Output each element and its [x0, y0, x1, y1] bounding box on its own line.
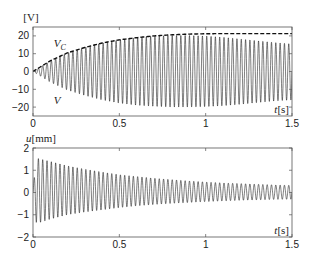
voltage-plot: 00.511.5−20−1001020[V]t[s]VCV: [12, 11, 299, 129]
x-axis-label: t[s]: [274, 224, 289, 236]
x-axis-label: t[s]: [274, 103, 289, 115]
y-axis-label: [V]: [23, 11, 38, 23]
y-tick-label: 10: [18, 48, 30, 59]
x-axis-unit: [s]: [277, 103, 289, 115]
y-tick-label: −2: [18, 232, 30, 243]
y-tick-label: −1: [18, 209, 30, 220]
x-tick-label: 1.5: [285, 118, 299, 129]
series-V: [33, 36, 292, 107]
x-tick-label: 0: [30, 118, 36, 129]
curve-symbol: V: [54, 94, 62, 106]
y-tick-label: 0: [23, 66, 29, 77]
curve-label-vc: VC: [54, 37, 67, 52]
x-tick-label: 0.5: [112, 239, 126, 250]
displacement-plot: 00.511.5−2−1012u[mm]t[s]: [18, 132, 300, 250]
curve-subscript: C: [60, 43, 66, 52]
y-tick-label: 2: [23, 143, 29, 154]
y-tick-label: −10: [12, 84, 29, 95]
y-tick-label: 0: [23, 187, 29, 198]
y-tick-label: 1: [23, 165, 29, 176]
x-tick-label: 1: [203, 239, 209, 250]
y-tick-label: −20: [12, 102, 29, 113]
series-u: [33, 159, 292, 223]
plot-area: [33, 34, 292, 107]
plot-area: [33, 159, 292, 223]
x-tick-label: 0.5: [112, 118, 126, 129]
y-axis-unit: [mm]: [32, 132, 56, 144]
x-tick-label: 1.5: [285, 239, 299, 250]
x-tick-label: 0: [30, 239, 36, 250]
x-tick-label: 1: [203, 118, 209, 129]
figure: 00.511.5−20−1001020[V]t[s]VCV 00.511.5−2…: [0, 0, 311, 260]
y-axis-label: u[mm]: [26, 132, 56, 144]
y-tick-label: 20: [18, 30, 30, 41]
curve-label-v: V: [54, 94, 62, 106]
x-axis-unit: [s]: [277, 224, 289, 236]
